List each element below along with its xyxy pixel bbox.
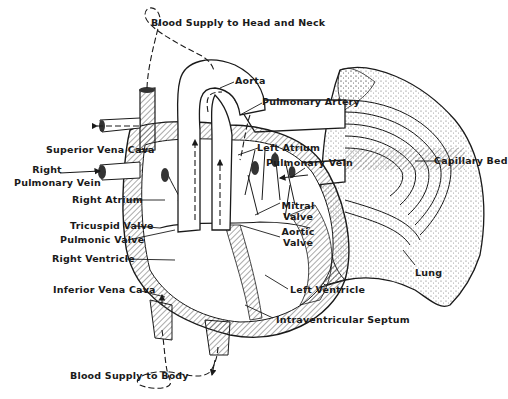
label-blood-supply-body: Blood Supply to Body bbox=[70, 370, 189, 381]
label-aorta: Aorta bbox=[235, 75, 266, 86]
label-right-atrium: Right Atrium bbox=[72, 194, 143, 205]
label-mitral-valve-line1: Mitral bbox=[280, 200, 316, 211]
label-pulmonary-artery: Pulmonary Artery bbox=[262, 96, 360, 107]
label-mitral-valve-line2: Valve bbox=[280, 211, 316, 222]
label-left-ventricle: Left Ventricle bbox=[290, 284, 365, 295]
label-blood-supply-head-neck: Blood Supply to Head and Neck bbox=[151, 17, 325, 28]
label-lung: Lung bbox=[415, 267, 442, 278]
label-aortic-valve-line2: Valve bbox=[280, 237, 316, 248]
label-right-pulmonary-vein-line1: Right bbox=[12, 164, 82, 175]
label-left-atrium: Left Atrium bbox=[257, 142, 320, 153]
label-right-pulmonary-vein-line2: Pulmonary Vein bbox=[14, 177, 101, 188]
label-pulmonary-vein: Pulmonary Vein bbox=[266, 157, 353, 168]
label-aortic-valve-line1: Aortic bbox=[280, 226, 316, 237]
label-right-ventricle: Right Ventricle bbox=[52, 253, 135, 264]
label-intraventricular-septum: Intraventricular Septum bbox=[276, 314, 410, 325]
label-superior-vena-cava: Superior Vena Cava bbox=[46, 144, 155, 155]
label-inferior-vena-cava: Inferior Vena Cava bbox=[53, 284, 156, 295]
label-capillary-bed: Capillary Bed bbox=[434, 155, 508, 166]
label-pulmonic-valve: Pulmonic Valve bbox=[60, 234, 144, 245]
label-tricuspid-valve: Tricuspid Valve bbox=[70, 220, 154, 231]
